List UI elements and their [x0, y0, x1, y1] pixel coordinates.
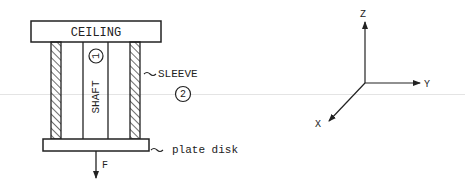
- force-label: F: [102, 160, 108, 171]
- sleeve-annotation: SLEEVE 2: [144, 68, 198, 102]
- force-arrow: F: [96, 151, 108, 178]
- z-axis-label: Z: [360, 9, 366, 20]
- ceiling: CEILING: [31, 21, 161, 42]
- sleeve-left: [51, 42, 61, 139]
- diagram-svg: CEILING 1 SHAFT SLEEVE 2 pla: [0, 0, 465, 186]
- x-axis: [329, 83, 365, 121]
- diagram-canvas: CEILING 1 SHAFT SLEEVE 2 pla: [0, 0, 465, 186]
- plate-disk: plate disk: [43, 139, 238, 156]
- ceiling-label: CEILING: [71, 26, 121, 40]
- sleeve-right: [130, 42, 140, 139]
- y-axis-label: Y: [424, 79, 430, 90]
- shaft: 1 SHAFT: [83, 42, 108, 139]
- sleeve-label: SLEEVE: [158, 68, 198, 80]
- tilde-icon: [151, 149, 163, 152]
- shaft-number: 1: [91, 53, 102, 59]
- shaft-label: SHAFT: [90, 80, 102, 113]
- plate-label: plate disk: [172, 144, 238, 156]
- coordinate-axes: Z Y X: [315, 9, 430, 130]
- x-axis-label: X: [315, 119, 321, 130]
- sleeve-number: 2: [180, 89, 186, 100]
- tilde-icon: [144, 73, 156, 76]
